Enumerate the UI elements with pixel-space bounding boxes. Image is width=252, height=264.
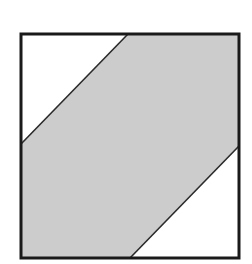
diagram-figure	[0, 0, 252, 264]
shaded-band	[21, 34, 239, 258]
